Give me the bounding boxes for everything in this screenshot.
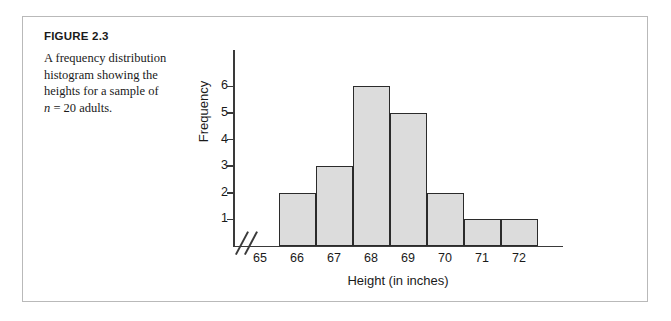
figure-root: FIGURE 2.3 A frequency distribution hist… xyxy=(0,0,671,321)
histogram-bar xyxy=(464,219,501,246)
figure-caption-text: A frequency distribution histogram showi… xyxy=(44,50,196,116)
histogram-bar xyxy=(316,166,353,246)
y-tick-label: 3 xyxy=(221,158,228,172)
caption-line-3: heights for a sample of xyxy=(44,84,159,98)
histogram-bar xyxy=(353,86,390,246)
y-tick-label: 6 xyxy=(221,78,228,92)
x-tick-label: 71 xyxy=(467,251,497,265)
y-tick-label: 1 xyxy=(221,211,228,225)
histogram-chart: Frequency 123456 6566676869707172 Height… xyxy=(196,30,616,280)
y-tick-label: 2 xyxy=(221,185,228,199)
x-tick-label: 66 xyxy=(282,251,312,265)
x-tick-label: 70 xyxy=(430,251,460,265)
x-tick-label: 65 xyxy=(245,251,275,265)
histogram-bar xyxy=(279,193,316,246)
histogram-bar xyxy=(427,193,464,246)
y-tick-label: 4 xyxy=(221,132,228,146)
y-axis-line xyxy=(233,50,235,247)
caption-line-1: A frequency distribution xyxy=(44,51,166,65)
x-axis-title: Height (in inches) xyxy=(233,273,563,288)
y-tick-label: 5 xyxy=(221,105,228,119)
x-tick-label: 72 xyxy=(504,251,534,265)
figure-caption-block: FIGURE 2.3 A frequency distribution hist… xyxy=(44,30,196,116)
x-tick-label: 68 xyxy=(356,251,386,265)
figure-number-label: FIGURE 2.3 xyxy=(44,30,196,42)
plot-region: Frequency 123456 6566676869707172 Height… xyxy=(196,30,616,280)
caption-line-4-rest: = 20 adults. xyxy=(50,101,112,115)
caption-line-2: histogram showing the xyxy=(44,68,158,82)
x-tick-label: 69 xyxy=(393,251,423,265)
x-tick-label: 67 xyxy=(319,251,349,265)
histogram-bar xyxy=(390,113,427,246)
y-axis-title: Frequency xyxy=(196,47,211,177)
histogram-bar xyxy=(501,219,538,246)
